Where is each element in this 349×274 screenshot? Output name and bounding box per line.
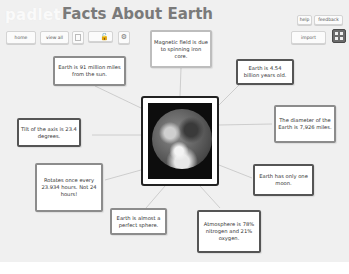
import-button[interactable]: import xyxy=(291,31,326,44)
earth-image xyxy=(148,103,212,179)
board-title[interactable]: Facts About Earth xyxy=(62,5,213,23)
padlet-board: padlet Facts About Earth home view all 🔓… xyxy=(0,0,349,262)
note-atmosphere[interactable]: Atmosphere is 78% nitrogen and 21% oxyge… xyxy=(197,210,261,253)
view-all-button[interactable]: view all xyxy=(40,31,69,44)
settings-button[interactable]: ⚙ xyxy=(118,31,130,44)
padlet-logo[interactable]: padlet xyxy=(5,6,61,24)
note-rotation[interactable]: Rotates once every 23.934 hours. Not 24 … xyxy=(35,163,103,212)
feedback-button[interactable]: feedback xyxy=(314,15,343,25)
home-button[interactable]: home xyxy=(6,31,36,44)
note-moon[interactable]: Earth has only one moon. xyxy=(253,164,314,196)
note-sphere[interactable]: Earth is almost a perfect sphere. xyxy=(110,208,167,235)
gear-icon: ⚙ xyxy=(121,33,127,41)
earth-globe xyxy=(152,109,212,169)
help-button[interactable]: help xyxy=(297,15,312,25)
earth-image-card[interactable] xyxy=(141,96,219,186)
note-magnetic[interactable]: Magnetic field is due to spinning iron c… xyxy=(150,30,212,68)
note-age[interactable]: Earth is 4.54 billion years old. xyxy=(236,59,294,85)
layout-grid-button[interactable] xyxy=(332,29,346,43)
blank-toggle-button[interactable] xyxy=(72,31,84,44)
lock-button[interactable]: 🔓 xyxy=(88,31,113,42)
note-tilt[interactable]: Tilt of the axis is 23.4 degrees. xyxy=(17,118,81,147)
square-icon xyxy=(75,34,81,41)
note-distance[interactable]: Earth is 91 million miles from the sun. xyxy=(53,56,126,86)
unlock-icon: 🔓 xyxy=(100,33,109,41)
note-diameter[interactable]: The diameter of the Earth is 7,926 miles… xyxy=(274,105,336,143)
